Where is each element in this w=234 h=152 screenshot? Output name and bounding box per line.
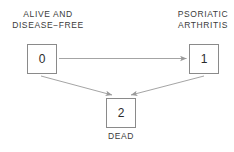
state-box-2: 2 — [106, 98, 136, 128]
state-label-line-1: DEAD — [91, 131, 151, 142]
state-number-0: 0 — [39, 53, 46, 65]
state-label-dead: DEAD — [91, 131, 151, 142]
state-label-alive-and-disease-free: ALIVE AND DISEASE−FREE — [0, 9, 96, 31]
state-box-0: 0 — [27, 44, 57, 74]
arrow-state0-to-state2 — [41, 76, 112, 95]
state-label-line-1: PSORIATIC — [156, 9, 234, 20]
state-number-2: 2 — [118, 107, 125, 119]
state-transition-diagram: ALIVE AND DISEASE−FREE PSORIATIC ARTHRIT… — [0, 0, 234, 152]
state-box-1: 1 — [189, 44, 219, 74]
arrow-state1-to-state2 — [131, 76, 204, 95]
state-number-1: 1 — [201, 53, 208, 65]
state-label-line-1: ALIVE AND — [0, 9, 96, 20]
state-label-line-2: DISEASE−FREE — [0, 20, 96, 31]
state-label-line-2: ARTHRITIS — [156, 20, 234, 31]
state-label-psoriatic-arthritis: PSORIATIC ARTHRITIS — [156, 9, 234, 31]
